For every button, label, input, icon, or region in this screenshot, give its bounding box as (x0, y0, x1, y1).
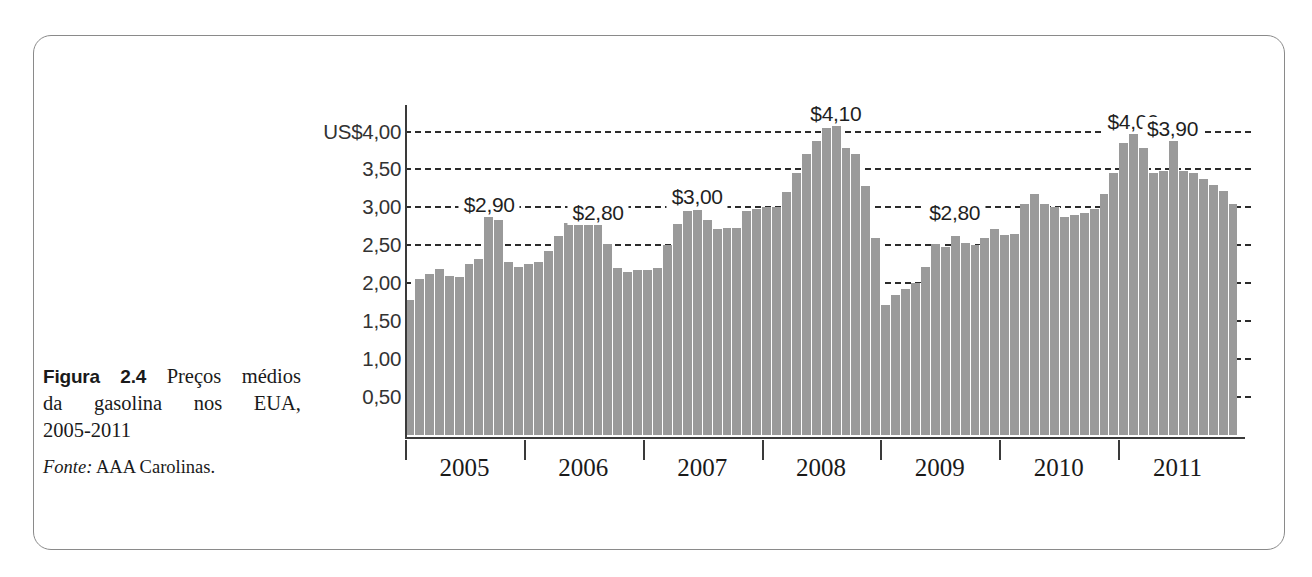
bar (961, 243, 971, 435)
bar (1119, 143, 1129, 435)
bar (1109, 173, 1119, 435)
bar (663, 245, 673, 435)
bar (623, 272, 633, 435)
bar (951, 236, 961, 435)
bar (494, 220, 504, 435)
value-annotation: $3,00 (667, 185, 728, 209)
bar (1149, 173, 1159, 435)
bar (534, 262, 544, 435)
bar (1080, 213, 1090, 435)
bar (842, 148, 852, 435)
figure-source: Fonte: AAA Carolinas. (43, 457, 301, 478)
bar (1090, 209, 1100, 435)
x-axis-year-label: 2006 (558, 454, 608, 482)
source-text: AAA Carolinas. (96, 457, 215, 477)
bar (445, 276, 455, 435)
bar (822, 128, 832, 435)
bar (980, 238, 990, 435)
bar (653, 268, 663, 435)
caption-line-2: da gasolina nos EUA, (43, 390, 301, 417)
bar (941, 247, 951, 435)
bar (683, 211, 693, 435)
bar (921, 267, 931, 435)
figure-number: Figura 2.4 (43, 366, 146, 387)
source-label: Fonte: (43, 457, 92, 477)
bar (1040, 204, 1050, 435)
figure-caption: Figura 2.4 Preços médios da gasolina nos… (43, 363, 301, 478)
x-axis-tick (880, 440, 882, 460)
bar (713, 229, 723, 435)
bar (802, 154, 812, 435)
bar (732, 228, 742, 435)
bar (1010, 234, 1020, 435)
x-axis-tick (1118, 440, 1120, 460)
y-axis-tick-label: 0,50 (362, 385, 401, 409)
x-axis-tick (762, 440, 764, 460)
bar (782, 192, 792, 435)
bar (554, 236, 564, 435)
bar (1020, 204, 1030, 435)
bar (415, 279, 425, 435)
bar (524, 264, 534, 435)
bar (673, 224, 683, 435)
chart-plot-area: $2,90$2,80$3,00$4,10$2,80$4,00$3,90 (405, 105, 1245, 435)
bar (514, 267, 524, 435)
bar (1030, 194, 1040, 435)
x-axis-year-label: 2005 (439, 454, 489, 482)
value-annotation: $2,80 (568, 201, 629, 225)
value-annotation: $3,90 (1142, 117, 1203, 141)
y-axis-tick-label: 3,00 (362, 195, 401, 219)
bar (752, 209, 762, 435)
bar (584, 218, 594, 435)
bar (792, 173, 802, 435)
bar (703, 220, 713, 435)
x-axis-year-label: 2009 (915, 454, 965, 482)
caption-line-3: 2005-2011 (43, 417, 301, 444)
bar (1199, 179, 1209, 435)
x-axis-tick (405, 440, 407, 460)
bar (762, 207, 772, 435)
y-axis-line (405, 105, 407, 437)
bar (1159, 171, 1169, 435)
bar (891, 295, 901, 435)
x-axis-tick (999, 440, 1001, 460)
bar (504, 262, 514, 435)
bar (742, 211, 752, 435)
x-axis-year-label: 2011 (1153, 454, 1202, 482)
bar (435, 269, 445, 435)
caption-line-1: Figura 2.4 Preços médios (43, 363, 301, 390)
bar (832, 124, 842, 435)
bar (1129, 132, 1139, 435)
bar (1189, 173, 1199, 435)
bar (594, 217, 604, 435)
bar (484, 215, 494, 435)
y-axis-tick-label: 1,00 (362, 347, 401, 371)
x-axis-year-label: 2007 (677, 454, 727, 482)
bar (881, 305, 891, 435)
bar (613, 268, 623, 435)
bar (1209, 185, 1219, 435)
bar (990, 229, 1000, 435)
x-axis-line (405, 437, 1245, 439)
x-axis-tick (643, 440, 645, 460)
y-axis-tick-label: 1,50 (362, 309, 401, 333)
bar (1139, 148, 1149, 435)
value-annotation: $4,10 (805, 102, 866, 126)
bar (871, 238, 881, 435)
bar (1000, 235, 1010, 435)
bar (911, 283, 921, 435)
caption-text-1: Preços médios (167, 365, 301, 387)
bar (633, 270, 643, 435)
bar (574, 221, 584, 435)
bar (1070, 215, 1080, 435)
bar-series (405, 105, 1237, 435)
y-axis-tick-label: 2,50 (362, 233, 401, 257)
x-axis-tick (524, 440, 526, 460)
bar (861, 186, 871, 435)
value-annotation: $2,90 (459, 193, 520, 217)
value-annotation: $2,80 (924, 201, 985, 225)
bar (1050, 207, 1060, 435)
x-axis-year-label: 2008 (796, 454, 846, 482)
bar (643, 270, 653, 435)
bar (425, 274, 435, 435)
